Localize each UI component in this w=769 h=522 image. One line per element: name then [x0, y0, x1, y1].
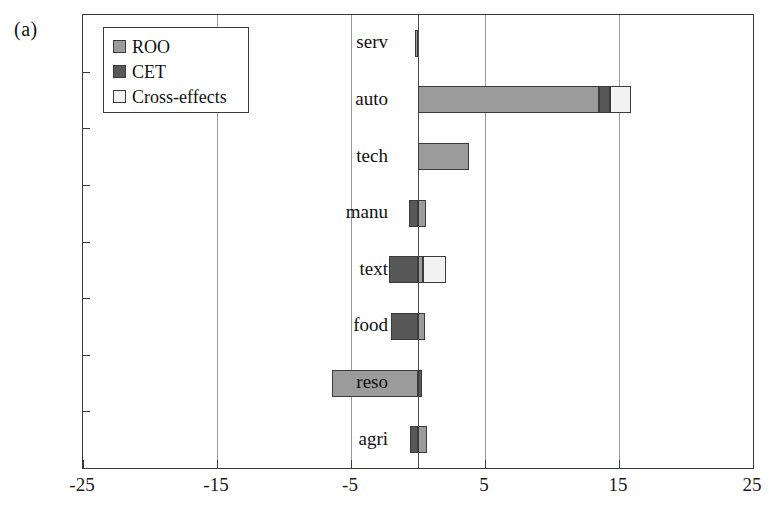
x-tick-mark--15 — [217, 460, 218, 469]
y-tick-mark-1 — [83, 128, 90, 129]
bar-segment-auto-cet — [599, 86, 610, 113]
x-tick-mark--5 — [351, 460, 352, 469]
y-tick-mark-0 — [83, 72, 90, 73]
category-label-food: food — [280, 314, 388, 336]
category-label-reso: reso — [280, 371, 388, 393]
y-tick-mark-6 — [83, 411, 90, 412]
x-tick-label--15: -15 — [203, 474, 228, 496]
bar-segment-text-cet — [389, 256, 418, 283]
legend-label-cet: CET — [132, 63, 166, 81]
bar-segment-tech-roo — [418, 143, 469, 170]
figure-panel-a: (a) -25-15-551525 servautotechmanutextfo… — [0, 0, 769, 522]
bar-segment-text-cross-effects — [423, 256, 446, 283]
y-tick-mark-4 — [83, 298, 90, 299]
x-tick-label--25: -25 — [69, 474, 94, 496]
bar-segment-food-cet — [391, 313, 418, 340]
category-label-auto: auto — [280, 88, 388, 110]
x-tick-mark-5 — [485, 460, 486, 469]
x-tick-label-25: 25 — [743, 474, 762, 496]
x-tick-label--5: -5 — [342, 474, 358, 496]
bar-segment-manu-cet — [409, 200, 418, 227]
bar-segment-serv-roo — [415, 30, 418, 57]
legend-item-cross-effects: Cross-effects — [113, 84, 240, 109]
x-tick-mark--25 — [83, 460, 84, 469]
x-tick-mark-25 — [753, 460, 754, 469]
legend: ROOCETCross-effects — [103, 27, 249, 113]
legend-item-cet: CET — [113, 59, 240, 84]
category-label-serv: serv — [280, 31, 388, 53]
y-tick-mark-2 — [83, 185, 90, 186]
gridline-x-15 — [619, 15, 620, 468]
panel-label: (a) — [14, 18, 38, 41]
y-tick-mark-5 — [83, 355, 90, 356]
legend-swatch-cet — [113, 65, 126, 78]
bar-segment-auto-roo — [418, 86, 599, 113]
legend-label-roo: ROO — [132, 38, 170, 56]
legend-swatch-cross-effects — [113, 90, 126, 103]
x-tick-label-5: 5 — [479, 474, 489, 496]
category-label-agri: agri — [280, 428, 388, 450]
x-tick-label-15: 15 — [609, 474, 628, 496]
x-tick-mark-15 — [619, 460, 620, 469]
category-label-text: text — [280, 258, 388, 280]
gridline-x--5 — [351, 15, 352, 468]
bar-segment-agri-cet — [410, 426, 418, 453]
legend-item-roo: ROO — [113, 34, 240, 59]
y-tick-mark-3 — [83, 242, 90, 243]
bar-segment-agri-roo — [418, 426, 427, 453]
bar-segment-food-roo — [418, 313, 425, 340]
bar-segment-auto-cross-effects — [610, 86, 631, 113]
legend-swatch-roo — [113, 40, 126, 53]
category-label-manu: manu — [280, 201, 388, 223]
legend-label-cross-effects: Cross-effects — [132, 88, 227, 106]
bar-segment-manu-roo — [418, 200, 426, 227]
category-label-tech: tech — [280, 145, 388, 167]
bar-segment-reso-cet — [418, 370, 422, 397]
gridline-x-5 — [485, 15, 486, 468]
zero-line — [418, 15, 419, 468]
